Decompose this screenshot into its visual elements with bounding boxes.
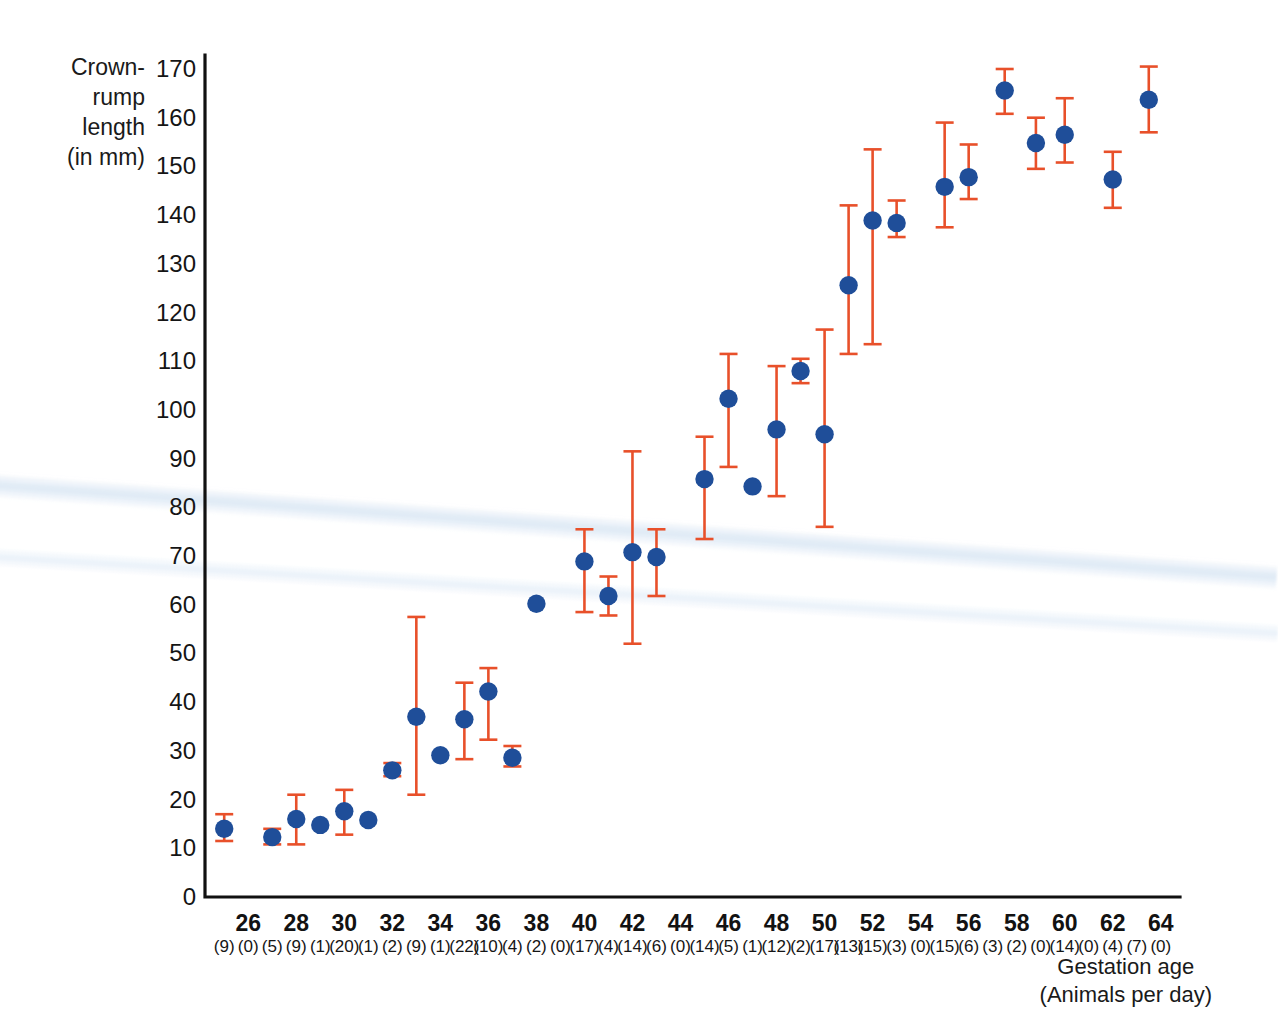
data-point (311, 816, 329, 834)
x-axis-tick-label: 60 (1052, 910, 1078, 937)
animals-per-day-count: (10) (473, 937, 503, 957)
animals-per-day-count: (15) (930, 937, 960, 957)
data-point (719, 390, 737, 408)
y-axis-tick-label: 120 (140, 299, 196, 327)
error-bar (936, 123, 954, 228)
x-axis-tick-label: 42 (620, 910, 646, 937)
animals-per-day-count: (9) (406, 937, 427, 957)
x-axis-tick-label: 26 (235, 910, 261, 937)
data-point (335, 802, 353, 820)
animals-per-day-count: (1) (358, 937, 379, 957)
y-axis-tick-label: 80 (140, 493, 196, 521)
animals-per-day-count: (2) (790, 937, 811, 957)
data-point (695, 470, 713, 488)
x-axis-tick-label: 56 (956, 910, 982, 937)
animals-per-day-count: (2) (526, 937, 547, 957)
x-axis-tick-label: 34 (428, 910, 454, 937)
animals-per-day-count: (17) (569, 937, 599, 957)
animals-per-day-count: (3) (886, 937, 907, 957)
y-axis-tick-label: 0 (140, 883, 196, 911)
animals-per-day-count: (6) (958, 937, 979, 957)
data-point (743, 477, 761, 495)
animals-per-day-count: (4) (598, 937, 619, 957)
animals-per-day-count: (14) (617, 937, 647, 957)
x-axis-tick-label: 44 (668, 910, 694, 937)
x-axis-tick-label: 54 (908, 910, 934, 937)
data-point (1056, 126, 1074, 144)
data-point (359, 811, 377, 829)
y-axis-tick-label: 30 (140, 737, 196, 765)
data-point (215, 820, 233, 838)
data-point (791, 362, 809, 380)
animals-per-day-count: (2) (382, 937, 403, 957)
y-axis-tick-label: 150 (140, 152, 196, 180)
y-axis-tick-label: 20 (140, 786, 196, 814)
data-point (995, 81, 1013, 99)
axis-lines (205, 55, 1180, 897)
animals-per-day-count: (4) (502, 937, 523, 957)
error-bar (720, 354, 738, 467)
animals-per-day-count: (0) (238, 937, 259, 957)
y-axis-tick-label: 110 (140, 347, 196, 375)
animals-per-day-count: (0) (670, 937, 691, 957)
data-point (623, 543, 641, 561)
y-axis-tick-label: 100 (140, 396, 196, 424)
data-point (815, 425, 833, 443)
data-point (503, 749, 521, 767)
data-point (479, 682, 497, 700)
y-axis-tick-label: 70 (140, 542, 196, 570)
animals-per-day-count: (1) (310, 937, 331, 957)
data-point (767, 420, 785, 438)
y-axis-tick-label: 130 (140, 250, 196, 278)
y-axis-tick-label: 160 (140, 104, 196, 132)
data-point (575, 552, 593, 570)
x-axis-tick-label: 36 (476, 910, 502, 937)
data-point (527, 595, 545, 613)
y-axis-tick-label: 140 (140, 201, 196, 229)
data-point (863, 211, 881, 229)
animals-per-day-count: (5) (718, 937, 739, 957)
animals-per-day-count: (1) (742, 937, 763, 957)
error-bar (575, 529, 593, 612)
animals-per-day-count: (0) (910, 937, 931, 957)
data-point (1140, 90, 1158, 108)
data-point (959, 168, 977, 186)
animals-per-day-count: (9) (214, 937, 235, 957)
y-axis-tick-label: 10 (140, 834, 196, 862)
animals-per-day-count: (2) (1006, 937, 1027, 957)
x-axis-tick-label: 32 (380, 910, 406, 937)
x-axis-tick-label: 58 (1004, 910, 1030, 937)
error-bars (215, 67, 1158, 845)
error-bar (407, 617, 425, 795)
data-point (407, 708, 425, 726)
animals-per-day-count: (20) (329, 937, 359, 957)
animals-per-day-count: (0) (550, 937, 571, 957)
data-point (263, 828, 281, 846)
y-axis-tick-label: 40 (140, 688, 196, 716)
data-markers (215, 81, 1158, 846)
animals-per-day-count: (15) (857, 937, 887, 957)
data-point (647, 548, 665, 566)
x-axis-tick-label: 30 (331, 910, 357, 937)
data-point (599, 587, 617, 605)
x-axis-tick-label: 52 (860, 910, 886, 937)
data-point (287, 810, 305, 828)
y-axis-tick-label: 170 (140, 55, 196, 83)
x-axis-tick-label: 28 (283, 910, 309, 937)
y-axis-tick-label: 50 (140, 639, 196, 667)
animals-per-day-count: (5) (262, 937, 283, 957)
x-axis-tick-label: 40 (572, 910, 598, 937)
error-bar (479, 668, 497, 740)
data-point (431, 746, 449, 764)
x-axis-title: Gestation age (Animals per day) (1040, 953, 1212, 1009)
data-point (1027, 134, 1045, 152)
y-axis-tick-label: 60 (140, 591, 196, 619)
data-point (839, 276, 857, 294)
data-point (1104, 170, 1122, 188)
y-axis-tick-label: 90 (140, 445, 196, 473)
x-axis-tick-label: 62 (1100, 910, 1126, 937)
data-point (887, 214, 905, 232)
animals-per-day-count: (9) (286, 937, 307, 957)
x-axis-tick-label: 64 (1148, 910, 1174, 937)
